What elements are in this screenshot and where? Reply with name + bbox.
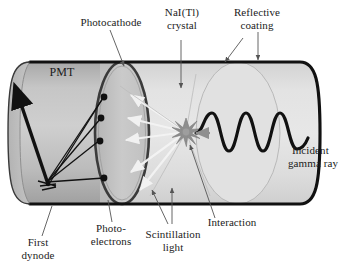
label-coating-line1: Reflective — [222, 6, 292, 19]
label-first-dynode-line1: First — [10, 236, 66, 249]
label-interaction: Interaction — [196, 216, 268, 228]
label-photocathode: Photocathode — [68, 16, 154, 28]
label-crystal-line2: crystal — [156, 19, 208, 32]
label-incident-line2: gamma ray — [288, 157, 354, 170]
label-incident-line1: Incident — [292, 144, 352, 157]
label-crystal-line1: NaI(Tl) — [156, 6, 208, 19]
leader-first-dynode — [42, 206, 52, 236]
photocathode-ellipse — [95, 62, 149, 204]
label-photoelectrons-line2: electrons — [76, 235, 146, 248]
label-first-dynode-line2: dynode — [6, 249, 70, 262]
label-photoelectrons-line1: Photo- — [80, 222, 142, 235]
label-pmt: PMT — [40, 66, 84, 78]
label-coating-line2: coating — [222, 19, 292, 32]
leader-coating-a — [225, 38, 243, 62]
